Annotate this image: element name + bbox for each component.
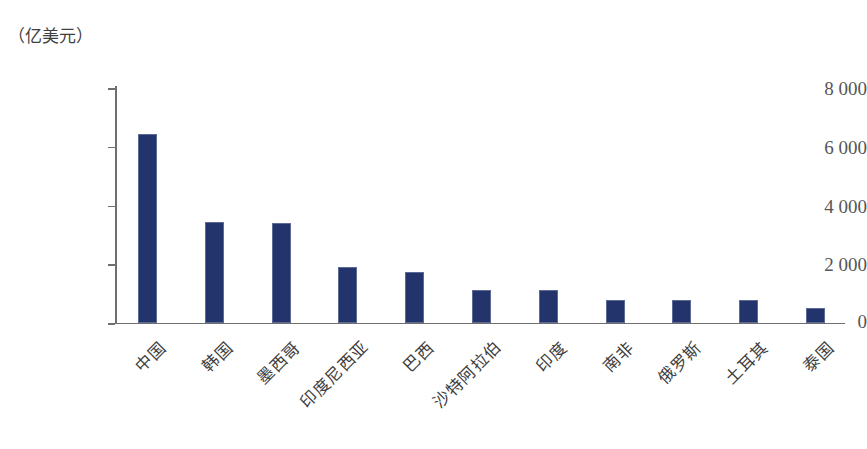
y-tick-4000 [108,206,115,208]
y-tick-8000 [108,88,115,90]
bar-chart: （亿美元） 8 000 6 000 4 000 2 000 0 中国 韩国 墨西… [0,0,867,449]
x-category-label-10: 泰国 [797,335,839,377]
bar-3 [338,267,357,323]
y-tick-label-4000: 4 000 [767,196,867,218]
plot-area: 8 000 6 000 4 000 2 000 0 中国 韩国 墨西哥 印度尼西… [0,0,867,449]
bar-1 [205,222,224,323]
bar-7 [606,300,625,323]
bar-4 [405,272,424,323]
bar-9 [739,300,758,323]
y-tick-label-2000: 2 000 [767,254,867,276]
y-tick-label-6000: 6 000 [767,137,867,159]
x-category-label-0: 中国 [129,335,171,377]
y-tick-label-8000: 8 000 [767,78,867,100]
x-category-label-6: 印度 [530,335,572,377]
x-category-label-3: 印度尼西亚 [294,334,373,413]
y-axis-line [115,86,117,324]
y-tick-6000 [108,147,115,149]
y-tick-2000 [108,264,115,266]
bar-8 [672,300,691,324]
x-category-label-1: 韩国 [196,335,238,377]
x-category-label-8: 俄罗斯 [652,335,706,389]
bar-5 [472,290,491,323]
bar-10 [806,308,825,323]
y-tick-0 [108,323,115,325]
x-category-label-4: 巴西 [397,335,439,377]
bar-2 [272,223,291,323]
x-category-label-7: 南非 [597,335,639,377]
bar-0 [138,134,157,323]
x-category-label-9: 土耳其 [719,335,773,389]
bar-6 [539,290,558,323]
x-category-label-2: 墨西哥 [251,335,305,389]
x-category-label-5: 沙特阿拉伯 [427,334,506,413]
